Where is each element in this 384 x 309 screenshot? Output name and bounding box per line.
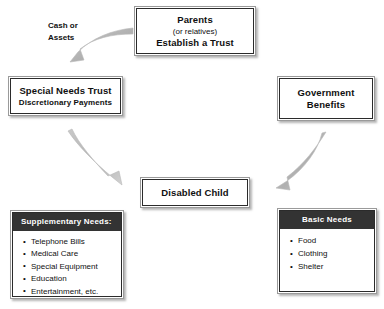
node-parents-body: Parents (or relatives) Establish a Trust	[136, 8, 254, 54]
node-disabled-child-line1: Disabled Child	[161, 187, 228, 199]
list-item: Education	[31, 273, 121, 285]
node-government-benefits-line1: Government	[298, 87, 355, 99]
list-item: Clothing	[298, 247, 374, 260]
list-item: Special Equipment	[31, 261, 121, 273]
node-special-needs-trust-line2: Discretionary Payments	[19, 97, 112, 108]
node-special-needs-trust-line1: Special Needs Trust	[19, 85, 111, 97]
node-basic-needs[interactable]: Basic Needs Food Clothing Shelter	[277, 208, 377, 294]
basic-needs-header: Basic Needs	[280, 211, 374, 229]
diagram-canvas: Cash or Assets Parents (or relatives) Es…	[0, 0, 384, 309]
arrow-trust-to-child	[68, 129, 122, 185]
node-parents-line2: (or relatives)	[173, 26, 217, 37]
node-government-benefits[interactable]: Government Benefits	[277, 76, 375, 121]
basic-needs-list: Food Clothing Shelter	[280, 234, 374, 273]
node-disabled-child[interactable]: Disabled Child	[140, 177, 250, 208]
arrow-parents-to-trust	[70, 28, 133, 62]
list-item: Shelter	[298, 260, 374, 273]
node-disabled-child-body: Disabled Child	[142, 179, 248, 206]
arrow-benefits-to-child	[276, 132, 326, 190]
node-parents-line1: Parents	[177, 14, 213, 26]
node-supplementary-needs[interactable]: Supplementary Needs: Telephone Bills Med…	[10, 210, 124, 299]
node-basic-needs-body: Basic Needs Food Clothing Shelter	[279, 210, 375, 292]
list-item: Food	[298, 234, 374, 247]
label-cash-or-assets: Cash or Assets	[48, 20, 78, 43]
label-cash-line2: Assets	[48, 32, 78, 44]
node-parents-line3: Establish a Trust	[156, 37, 234, 49]
list-item: Entertainment, etc.	[31, 286, 121, 298]
supplementary-needs-list: Telephone Bills Medical Care Special Equ…	[13, 236, 121, 298]
list-item: Telephone Bills	[31, 236, 121, 248]
node-special-needs-trust-body: Special Needs Trust Discretionary Paymen…	[10, 78, 121, 114]
node-parents[interactable]: Parents (or relatives) Establish a Trust	[134, 6, 256, 56]
node-supplementary-needs-body: Supplementary Needs: Telephone Bills Med…	[12, 212, 122, 297]
list-item: Medical Care	[31, 248, 121, 260]
node-government-benefits-body: Government Benefits	[279, 78, 373, 119]
node-government-benefits-line2: Benefits	[307, 99, 345, 111]
node-special-needs-trust[interactable]: Special Needs Trust Discretionary Paymen…	[8, 76, 123, 116]
label-cash-line1: Cash or	[48, 20, 78, 32]
supplementary-needs-header: Supplementary Needs:	[13, 213, 121, 231]
